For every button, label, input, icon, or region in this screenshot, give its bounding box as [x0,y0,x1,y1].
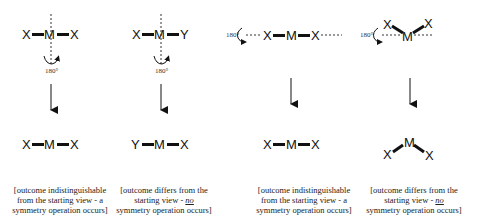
atom-center: M [402,29,413,44]
caption-line: [outcome differs from the [354,185,474,195]
atom-right: X [70,27,79,42]
panel-1: X M X 180° X M X [22,14,79,152]
caption-panel-1: [outcome indistinguishable from the star… [0,185,120,215]
symmetry-operations-diagram: X M X 180° X M X X M Y 180° Y [0,0,478,223]
bond [393,145,403,152]
result-atom-left: Y [131,137,140,152]
result-atom-right: X [180,137,189,152]
atom-center: M [286,28,297,43]
bond [57,33,69,36]
caption-line: symmetry operation occurs] [0,205,120,215]
bond [414,145,424,152]
bond [32,33,44,36]
atom-left: X [132,27,141,42]
bond [32,143,44,146]
result-atom-center: M [404,135,415,150]
caption-text: starting view - [134,195,185,205]
caption-panel-2: [outcome differs from the starting view … [104,185,224,215]
bond [167,33,179,36]
panel-3: 180° X M X X M X [226,28,342,152]
caption-panel-3: [outcome indistinguishable from the star… [244,185,364,215]
caption-emphasis: no [435,195,444,205]
result-atom-left: X [383,147,392,162]
angle-label: 180° [360,31,374,39]
rotation-arrow-icon [374,28,381,42]
caption-line: symmetry operation occurs] [104,205,224,215]
caption-line: [outcome indistinguishable [0,185,120,195]
atom-left: X [22,27,31,42]
atom-center: M [154,27,165,42]
caption-panel-4: [outcome differs from the starting view … [354,185,474,215]
result-atom-right: X [311,137,320,152]
result-atom-center: M [286,137,297,152]
caption-line: starting view - no [354,195,474,205]
caption-line: from the starting view - a [0,195,120,205]
panel-2: X M Y 180° Y M X [131,14,189,152]
result-atom-right: X [70,137,79,152]
caption-text: starting view - [384,195,435,205]
bond [57,143,69,146]
caption-emphasis: no [185,195,194,205]
angle-label: 180° [45,67,59,75]
atom-right: Y [180,27,189,42]
bond [298,34,310,37]
panel-4: 180° X M X X M X [360,16,434,163]
atom-right: X [424,16,433,31]
result-atom-left: X [22,137,31,152]
caption-line: symmetry operation occurs] [354,205,474,215]
result-atom-right: X [425,148,434,163]
bond [273,34,285,37]
caption-line: symmetry operation occurs] [244,205,364,215]
bond [413,26,424,33]
atom-right: X [311,28,320,43]
bond [273,143,285,146]
bond [167,143,179,146]
atom-center: M [44,27,55,42]
angle-label: 180° [155,67,169,75]
result-atom-left: X [263,137,272,152]
caption-line: [outcome indistinguishable [244,185,364,195]
bond [142,33,154,36]
caption-line: [outcome differs from the [104,185,224,195]
result-atom-center: M [154,137,165,152]
result-atom-center: M [44,137,55,152]
caption-line: starting view - no [104,195,224,205]
bond [298,143,310,146]
atom-left: X [263,28,272,43]
atom-left: X [383,17,392,32]
caption-line: from the starting view - a [244,195,364,205]
bond [142,143,154,146]
